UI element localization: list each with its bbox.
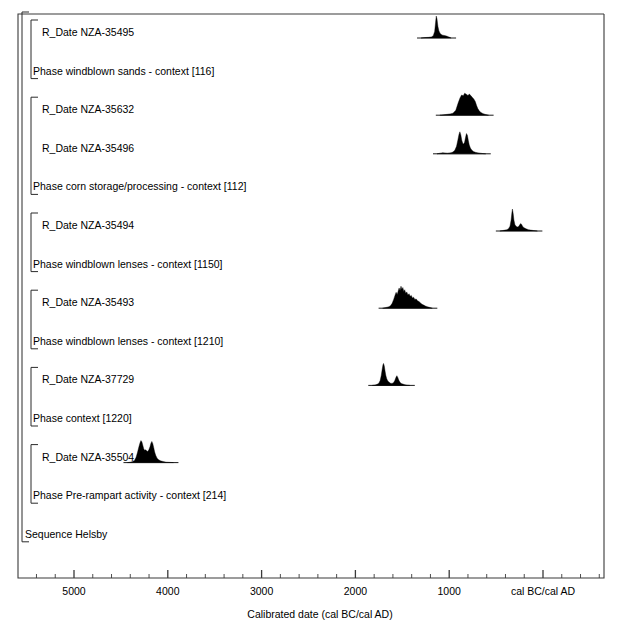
sequence-bracket — [22, 12, 29, 542]
probability-distribution — [437, 132, 486, 154]
phase-label: Phase corn storage/processing - context … — [33, 180, 246, 192]
axis-tick-group — [36, 570, 599, 578]
r-date-label: R_Date NZA-35493 — [42, 296, 134, 308]
probability-distribution — [383, 286, 433, 308]
r-date-label: R_Date NZA-35504 — [42, 451, 134, 463]
r-date-label: R_Date NZA-35496 — [42, 142, 134, 154]
x-axis-title: Calibrated date (cal BC/cal AD) — [247, 608, 392, 620]
phase-label: Phase windblown lenses - context [1150] — [33, 258, 223, 270]
phase-label: Phase windblown sands - context [116] — [33, 65, 214, 77]
plot-canvas — [0, 0, 621, 637]
probability-distribution — [440, 93, 489, 115]
probability-distribution — [500, 209, 538, 231]
r-date-label: R_Date NZA-37729 — [42, 373, 134, 385]
r-date-label: R_Date NZA-35495 — [42, 26, 134, 38]
phase-label: Phase Pre-rampart activity - context [21… — [33, 489, 226, 501]
probability-distribution — [421, 16, 451, 38]
axis-tick-label: 5000 — [62, 585, 85, 597]
axis-tick-label: 2000 — [344, 585, 367, 597]
phase-label: Phase windblown lenses - context [1210] — [33, 335, 223, 347]
distribution-group — [123, 16, 542, 463]
probability-distribution — [127, 441, 173, 463]
sequence-label: Sequence Helsby — [25, 528, 107, 540]
axis-tick-label: 3000 — [250, 585, 273, 597]
r-date-label: R_Date NZA-35632 — [42, 103, 134, 115]
r-date-label: R_Date NZA-35494 — [42, 219, 134, 231]
oxcal-plot: R_Date NZA-35495Phase windblown sands - … — [0, 0, 621, 637]
probability-distribution — [372, 363, 410, 385]
axis-tick-label: 4000 — [156, 585, 179, 597]
phase-label: Phase context [1220] — [33, 412, 132, 424]
bracket-group — [22, 12, 38, 542]
axis-tick-label: cal BC/cal AD — [511, 585, 575, 597]
axis-tick-label: 1000 — [438, 585, 461, 597]
